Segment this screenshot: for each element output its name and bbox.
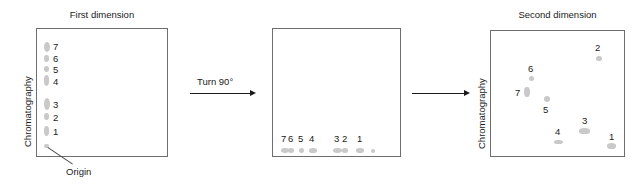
spot-label-5-second: 5 bbox=[543, 104, 548, 115]
spot-label-4-turned: 4 bbox=[309, 133, 314, 144]
spot-label-1-turned: 1 bbox=[357, 133, 362, 144]
spot-label-3-turned: 3 bbox=[334, 133, 339, 144]
spot-label-2-second: 2 bbox=[595, 42, 600, 53]
spot-7-second bbox=[524, 87, 529, 97]
axis-label-chromatography-first: Chromatography bbox=[22, 76, 33, 147]
axis-label-chromatography-second: Chromatography bbox=[476, 78, 487, 149]
spot-label-2-turned: 2 bbox=[342, 133, 347, 144]
spot-label-4-second: 4 bbox=[555, 126, 560, 137]
spot-label-3-second: 3 bbox=[582, 115, 587, 126]
spot-3-turned bbox=[333, 148, 342, 153]
spot-label-6-turned: 6 bbox=[288, 133, 293, 144]
spot-label-5-first: 5 bbox=[53, 64, 58, 75]
spot-1-second bbox=[607, 143, 616, 148]
spot-label-2-first: 2 bbox=[53, 112, 58, 123]
panel-title-second-dimension: Second dimension bbox=[490, 9, 625, 20]
spot-4-first bbox=[44, 75, 50, 85]
spot-7-first bbox=[44, 42, 50, 52]
spot-label-7-turned: 7 bbox=[281, 133, 286, 144]
turn-90-arrow-head bbox=[250, 90, 256, 96]
spot-6-turned bbox=[288, 148, 294, 153]
turn-90-arrow bbox=[190, 93, 256, 95]
second-run-arrow-line bbox=[412, 93, 466, 94]
spot-3-second bbox=[579, 128, 589, 133]
spot-6-first bbox=[44, 55, 49, 62]
spot-5-second bbox=[544, 96, 550, 102]
spot-3-first bbox=[44, 98, 50, 110]
spot-1-first bbox=[44, 126, 50, 136]
panel-title-first-dimension: First dimension bbox=[36, 9, 168, 20]
spot-origin-turned bbox=[371, 149, 375, 153]
spot-4-turned bbox=[309, 148, 317, 153]
second-run-arrow bbox=[412, 93, 470, 95]
spot-label-7-second: 7 bbox=[515, 87, 520, 98]
spot-label-3-first: 3 bbox=[53, 99, 58, 110]
two-dimensional-chromatography-figure: First dimension Chromatography 7 6 5 4 3… bbox=[0, 0, 638, 186]
spot-1-turned bbox=[356, 148, 363, 152]
spot-5-turned bbox=[299, 148, 304, 152]
spot-label-1-second: 1 bbox=[609, 131, 614, 142]
turn-90-caption: Turn 90° bbox=[197, 76, 233, 87]
turn-90-arrow-line bbox=[190, 93, 252, 94]
spot-2-turned bbox=[342, 148, 348, 152]
spot-label-1-first: 1 bbox=[53, 126, 58, 137]
spot-label-4-first: 4 bbox=[53, 76, 58, 87]
spot-label-5-turned: 5 bbox=[298, 133, 303, 144]
spot-2-second bbox=[596, 56, 601, 61]
spot-label-6-first: 6 bbox=[53, 53, 58, 64]
origin-label: Origin bbox=[66, 166, 91, 177]
spot-label-7-first: 7 bbox=[53, 41, 58, 52]
panel-second-dimension bbox=[490, 30, 625, 157]
spot-label-6-second: 6 bbox=[528, 63, 533, 74]
second-run-arrow-head bbox=[464, 90, 470, 96]
